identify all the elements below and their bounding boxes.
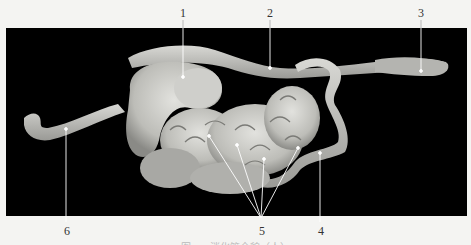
callout-label-6: 6: [64, 225, 70, 237]
specimen-illustration: [0, 0, 471, 245]
callout-label-5: 5: [259, 225, 265, 237]
leader-dot-2: [269, 67, 272, 70]
figure-caption: 图 · · · 消化管全貌（人）: [0, 239, 471, 245]
leader-dot-6: [65, 128, 68, 131]
leader-dot-1: [182, 76, 185, 79]
left-tube: [24, 104, 125, 140]
leader-dot-3: [420, 70, 423, 73]
callout-label-3: 3: [418, 7, 424, 19]
leader-dot-4: [319, 152, 322, 155]
anatomy-figure: 1 2 3 4 5 6 图 · · · 消化管全貌（人）: [0, 0, 471, 245]
callout-label-2: 2: [267, 7, 273, 19]
callout-label-1: 1: [180, 7, 186, 19]
callout-label-4: 4: [318, 225, 324, 237]
